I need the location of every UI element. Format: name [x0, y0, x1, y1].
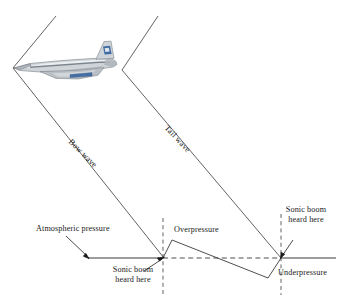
aircraft-illustration	[14, 41, 117, 79]
sonic-boom-left-arrowhead	[157, 257, 164, 261]
sonic-boom-left-line-2: heard here	[96, 275, 170, 285]
atmospheric-pressure-leader-line	[66, 236, 87, 256]
underpressure-label: Underpressure	[278, 268, 327, 278]
n-wave-profile	[163, 240, 281, 278]
sonic-boom-heard-here-left-label: Sonic boom heard here	[96, 265, 170, 285]
overpressure-label: Overpressure	[174, 225, 219, 235]
tail-wave-upper-line	[122, 16, 158, 70]
atmospheric-pressure-label: Atmospheric pressure	[36, 224, 110, 234]
sonic-boom-heard-here-right-label: Sonic boom heard here	[273, 205, 339, 225]
diagram-canvas	[0, 0, 343, 298]
n-wave-pressure-signature	[163, 240, 281, 278]
tail-wave-lines	[122, 16, 281, 258]
aircraft-tail-livery-detail	[105, 48, 110, 52]
sonic-boom-left-line-1: Sonic boom	[96, 265, 170, 275]
sonic-boom-right-line-2: heard here	[273, 215, 339, 225]
sonic-boom-diagram: Bow wave Tail wave Atmospheric pressure …	[0, 0, 343, 298]
sonic-boom-right-line-1: Sonic boom	[273, 205, 339, 215]
bow-wave-upper-line	[13, 16, 56, 68]
bow-wave-lines	[13, 16, 164, 258]
atmospheric-pressure-arrowhead	[83, 253, 89, 258]
